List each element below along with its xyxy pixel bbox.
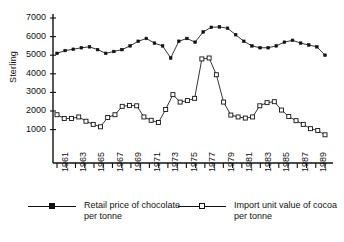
x-tick-label: 1967 [116,152,125,172]
hollow-square-marker [98,125,102,129]
hollow-square-marker [164,108,168,112]
x-tick-label: 1965 [97,152,106,172]
hollow-square-marker [236,115,240,119]
hollow-square-marker [127,103,131,107]
x-axis-tick-labels: 1961196319651967196919711973197519771979… [0,0,344,60]
x-tick-label: 1981 [245,152,254,172]
hollow-square-marker [84,119,88,123]
hollow-square-marker [323,133,327,137]
hollow-square-marker [62,116,66,120]
hollow-square-marker [316,129,320,133]
legend-label-line2: per tonne [84,211,180,222]
hollow-square-marker [55,113,59,117]
legend-label-line1: Retail price of chocolate [84,200,180,211]
hollow-square-marker [149,118,153,122]
hollow-square-marker [214,73,218,77]
x-tick-label: 1973 [171,152,180,172]
legend-label-line1: Import unit value of cocoa [234,200,337,211]
x-tick-label: 1963 [79,152,88,172]
hollow-square-marker [178,100,182,104]
hollow-square-marker [69,116,73,120]
x-tick-label: 1977 [208,152,217,172]
x-tick-label: 1969 [134,152,143,172]
hollow-square-marker [135,104,139,108]
hollow-square-marker [91,122,95,126]
x-tick-label: 1983 [264,152,273,172]
series-line [57,58,325,135]
hollow-square-marker [287,115,291,119]
hollow-square-marker [272,100,276,104]
hollow-square-marker [258,104,262,108]
x-tick-label: 1961 [61,152,70,172]
hollow-square-marker [280,108,284,112]
hollow-square-marker [171,93,175,97]
hollow-square-marker [251,115,255,119]
hollow-square-marker [120,104,124,108]
hollow-square-marker [243,116,247,120]
chart-legend: Retail price of chocolate per tonne Impo… [0,200,344,242]
hollow-square-marker [309,127,313,131]
x-tick-label: 1975 [190,152,199,172]
x-tick-label: 1979 [227,152,236,172]
hollow-square-marker [185,99,189,103]
hollow-square-marker [222,100,226,104]
hollow-square-marker [142,115,146,119]
legend-label-cocoa: Import unit value of cocoa per tonne [234,200,337,222]
x-tick-label: 1985 [282,152,291,172]
x-tick-label: 1989 [319,152,328,172]
hollow-square-marker [265,101,269,105]
hollow-square-marker [156,121,160,125]
legend-label-line2: per tonne [234,211,337,222]
hollow-square-marker [77,115,81,119]
filled-square-icon [49,203,55,209]
hollow-square-marker [301,122,305,126]
hollow-square-marker [294,119,298,123]
series-import-unit-value-of-cocoa [55,56,327,137]
hollow-square-marker [106,116,110,120]
x-tick-label: 1971 [153,152,162,172]
hollow-square-icon [199,203,205,209]
hollow-square-marker [229,113,233,117]
hollow-square-marker [113,113,117,117]
x-tick-label: 1987 [301,152,310,172]
hollow-square-marker [193,96,197,100]
chart-container: Sterling 1000200030004000500060007000 19… [0,0,344,242]
legend-label-chocolate: Retail price of chocolate per tonne [84,200,180,222]
